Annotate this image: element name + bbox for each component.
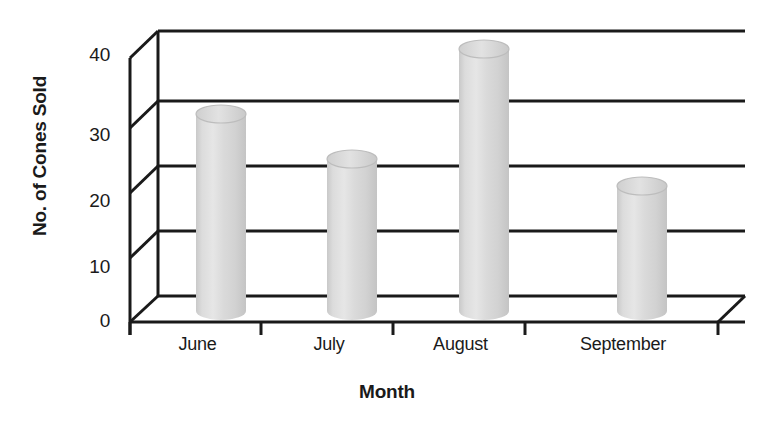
bar-september-body	[617, 186, 667, 320]
chart-figure: No. of Cones Sold Month 0 10 20 30 40 Ju…	[0, 0, 774, 430]
bar-august-body	[459, 49, 509, 320]
bar-june-body	[196, 114, 246, 320]
bar-june[interactable]	[196, 105, 246, 320]
bar-september-top-cap	[617, 177, 667, 195]
side-wall-depth-lines	[130, 31, 158, 322]
depth-line-30	[130, 101, 158, 128]
depth-line-10	[130, 231, 158, 258]
bar-august[interactable]	[459, 40, 509, 320]
bar-july[interactable]	[327, 150, 377, 320]
bar-july-body	[327, 159, 377, 320]
floor-right-depth-edge	[718, 296, 745, 322]
bar-july-top-cap	[327, 150, 377, 168]
depth-line-0	[130, 296, 158, 322]
depth-line-40	[130, 31, 158, 58]
bar-june-top-cap	[196, 105, 246, 123]
plot-area	[0, 0, 774, 430]
depth-line-20	[130, 166, 158, 193]
bar-august-top-cap	[459, 40, 509, 58]
bar-september[interactable]	[617, 177, 667, 320]
x-axis-ticks	[130, 322, 718, 335]
